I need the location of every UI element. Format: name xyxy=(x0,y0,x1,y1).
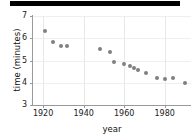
data-point xyxy=(155,76,159,80)
gridline-horizontal xyxy=(33,83,191,84)
x-axis-tick xyxy=(165,105,166,108)
x-axis-tick-label: 1940 xyxy=(69,110,99,118)
gridline-vertical xyxy=(84,16,85,105)
gridline-horizontal xyxy=(33,38,191,39)
y-axis-tick-label: 4 xyxy=(15,79,27,87)
y-axis-title-wrap: time (minutes) xyxy=(0,25,14,95)
x-axis-tick-label: 1960 xyxy=(109,110,139,118)
gridline-vertical xyxy=(165,16,166,105)
data-point xyxy=(183,81,187,85)
y-axis-tick-label: 5 xyxy=(15,57,27,65)
y-axis-tick xyxy=(30,16,33,17)
data-point xyxy=(112,60,116,64)
x-axis-title: year xyxy=(33,124,191,134)
y-axis-tick xyxy=(30,105,33,106)
x-axis-tick xyxy=(84,105,85,108)
x-axis-tick xyxy=(43,105,44,108)
x-axis-line xyxy=(32,105,191,106)
y-axis-tick xyxy=(30,61,33,62)
x-axis-tick-label: 1920 xyxy=(28,110,58,118)
chart-figure: time (minutes) year 34567192019401960198… xyxy=(0,0,194,140)
top-black-bar xyxy=(10,1,180,6)
data-point xyxy=(136,68,140,72)
y-axis-tick-label: 6 xyxy=(15,34,27,42)
gridline-vertical xyxy=(124,16,125,105)
gridline-horizontal xyxy=(33,16,191,17)
y-axis-tick xyxy=(30,83,33,84)
data-point xyxy=(98,47,102,51)
x-axis-tick xyxy=(124,105,125,108)
y-axis-tick-label: 3 xyxy=(15,101,27,109)
y-axis-tick-label: 7 xyxy=(15,12,27,20)
y-axis-tick xyxy=(30,38,33,39)
x-axis-tick-label: 1980 xyxy=(150,110,180,118)
